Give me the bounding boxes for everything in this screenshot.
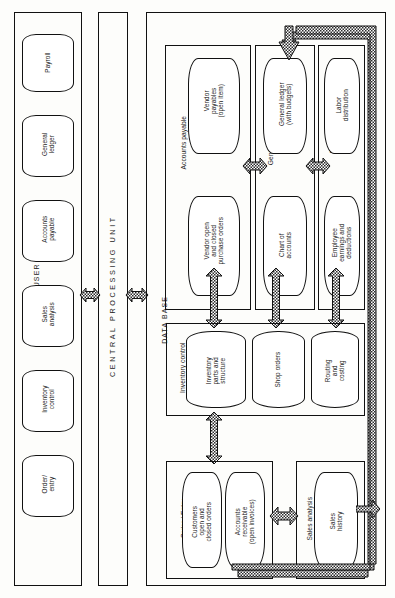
- terminal-accounts-payable-label: Accounts payable: [41, 204, 55, 254]
- terminal-sales-analysis-label: Sales analysis: [41, 289, 55, 339]
- arrow-terminals-to-cpu: [80, 286, 100, 304]
- terminal-payroll-label: Payroll: [44, 38, 51, 88]
- line: Order/: [41, 475, 48, 494]
- line: payable: [48, 218, 55, 241]
- terminal-general-ledger-label: General ledger: [41, 119, 55, 169]
- arrow-cpu-to-database: [126, 286, 148, 304]
- feedback-stub-sales-history: [356, 500, 380, 522]
- line: Inventory: [41, 386, 48, 413]
- line: Payroll: [44, 52, 51, 72]
- line: General: [41, 132, 48, 155]
- line: Accounts: [41, 216, 48, 243]
- line: entry: [48, 477, 55, 492]
- line: analysis: [48, 302, 55, 326]
- line: control: [48, 389, 55, 409]
- line: ledger: [48, 135, 55, 153]
- central-processing-unit-label: CENTRAL PROCESSING UNIT: [109, 221, 117, 377]
- line: Sales: [41, 306, 48, 323]
- terminal-inventory-control-label: Inventory control: [41, 374, 55, 424]
- diagram-canvas: USER TERMINALS Order/ entry Inventory co…: [0, 0, 395, 598]
- terminal-order-entry-label: Order/ entry: [41, 459, 55, 509]
- feedback-rail-order-entry-to-general-ledger: [146, 12, 386, 586]
